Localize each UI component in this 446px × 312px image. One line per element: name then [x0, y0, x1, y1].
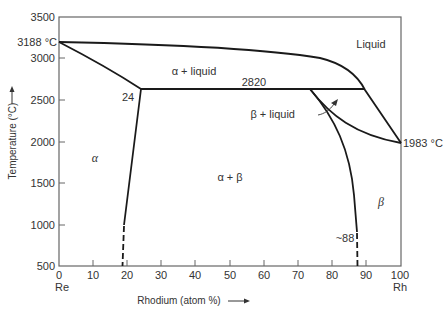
y-tick-3500: 3500 [31, 11, 55, 23]
x-tick-40: 40 [189, 269, 201, 281]
x-tick-80: 80 [326, 269, 338, 281]
x-tick-60: 60 [258, 269, 270, 281]
y-tick-1000: 1000 [31, 219, 55, 231]
beta-limit-label: ~88 [336, 232, 355, 244]
dashed-extrapolations [123, 226, 358, 266]
x-tick-90: 90 [360, 269, 372, 281]
rh-melting-label: 1983 °C [403, 137, 443, 149]
y-axis-ticks [59, 58, 65, 225]
beta-solvus-dashed [357, 233, 358, 266]
x-axis-ticks [93, 260, 366, 266]
y-axis-title: Temperature (°C) [7, 103, 18, 180]
alpha-solvus-line [124, 89, 141, 225]
region-alpha-liquid: α + liquid [172, 65, 217, 77]
peritectic-temp-label: 2820 [242, 76, 266, 88]
y-axis-labels: 3500 3000 2500 2000 1500 1000 500 [31, 11, 55, 272]
x-end-label-re: Re [55, 281, 69, 293]
x-arrowhead-icon [244, 299, 250, 304]
x-axis-title: Rhodium (atom %) [137, 295, 250, 306]
alpha-limit-label: 24 [122, 91, 134, 103]
beta-liquid-pointer-head-icon [331, 99, 338, 106]
x-tick-20: 20 [121, 269, 133, 281]
x-tick-70: 70 [292, 269, 304, 281]
region-liquid: Liquid [356, 38, 385, 50]
x-axis-labels: 0 10 20 30 40 50 60 70 80 90 100 Re Rh [55, 269, 409, 293]
y-tick-1500: 1500 [31, 177, 55, 189]
phase-diagram: 3500 3000 2500 2000 1500 1000 500 0 10 2… [0, 0, 446, 312]
phase-boundaries [59, 42, 401, 232]
x-axis-title-text: Rhodium (atom %) [137, 295, 220, 306]
y-axis-title-text: Temperature (°C) [7, 103, 18, 180]
upper-liquidus-line [59, 42, 401, 143]
x-end-label-rh: Rh [393, 281, 407, 293]
y-tick-2500: 2500 [31, 94, 55, 106]
y-arrowhead-icon [10, 86, 15, 92]
x-tick-100: 100 [391, 269, 409, 281]
region-beta-liquid: β + liquid [250, 108, 295, 120]
alpha-liquidus-line [59, 42, 141, 89]
re-melting-label: 3188 °C [17, 36, 57, 48]
plot-frame [59, 17, 401, 266]
x-tick-30: 30 [155, 269, 167, 281]
beta-solidus-line [310, 89, 401, 143]
region-alpha: α [92, 151, 99, 165]
alpha-solvus-dashed [123, 226, 125, 266]
x-tick-0: 0 [56, 269, 62, 281]
beta-solvus-line [310, 89, 357, 232]
region-alpha-beta: α + β [217, 171, 242, 183]
x-tick-50: 50 [224, 269, 236, 281]
y-tick-3000: 3000 [31, 52, 55, 64]
region-beta: β [377, 195, 384, 209]
y-tick-2000: 2000 [31, 136, 55, 148]
x-tick-10: 10 [87, 269, 99, 281]
y-tick-500: 500 [37, 260, 55, 272]
